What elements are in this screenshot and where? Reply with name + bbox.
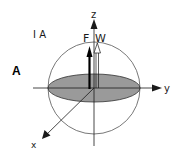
force-diagram: z y x F W I A A [0, 0, 189, 158]
vector-w-label: W [95, 32, 106, 45]
z-axis-arrowhead [91, 19, 98, 29]
z-axis-label: z [91, 9, 96, 20]
y-axis-arrowhead [152, 85, 162, 92]
y-axis-label: y [164, 83, 170, 94]
vector-f-label: F [83, 32, 89, 45]
case-label: I A [33, 29, 46, 40]
x-axis-label: x [31, 140, 37, 150]
vector-f-arrowhead [87, 46, 93, 57]
panel-label: A [12, 64, 21, 78]
